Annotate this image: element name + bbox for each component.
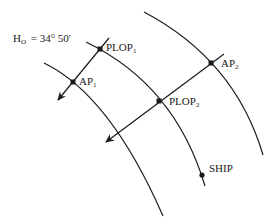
inner-arc <box>44 63 163 216</box>
outer-arc <box>144 12 263 155</box>
ap1-label: AP1 <box>79 76 97 87</box>
plop1-label: PLOP1 <box>106 42 136 53</box>
altitude-symbol: H <box>13 32 21 44</box>
ap1-subscript: 1 <box>93 81 97 89</box>
plop1-point <box>98 47 103 52</box>
altitude-value: = 34° 50' <box>31 32 71 44</box>
altitude-subscript: O <box>21 38 26 46</box>
ship-label: SHIP <box>209 163 233 174</box>
lop-diagram: HO = 34° 50' PLOP1 AP1 AP2 PLOP2 SHIP <box>0 0 277 219</box>
plop2-text: PLOP <box>169 95 196 107</box>
ap2-label: AP2 <box>221 58 239 69</box>
ap2-subscript: 2 <box>235 63 239 71</box>
ship-point <box>199 172 204 177</box>
ap1-text: AP <box>79 75 93 87</box>
plop2-point <box>157 99 162 104</box>
plop2-label: PLOP2 <box>169 96 199 107</box>
plop1-text: PLOP <box>106 41 133 53</box>
observed-altitude-label: HO = 34° 50' <box>13 33 71 44</box>
plop2-subscript: 2 <box>196 101 200 109</box>
ap2-text: AP <box>221 57 235 69</box>
ap2-point <box>209 61 214 66</box>
plop1-subscript: 1 <box>133 47 137 55</box>
ap1-point <box>71 80 76 85</box>
ship-text: SHIP <box>209 162 233 174</box>
azimuth-line-2 <box>106 54 224 142</box>
